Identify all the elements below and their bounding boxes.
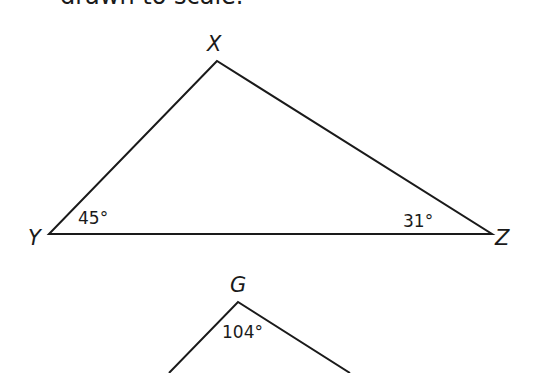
triangle-xyz <box>49 61 492 234</box>
vertex-label-z: Z <box>495 226 509 250</box>
vertex-label-x: X <box>207 32 221 56</box>
geometry-figure <box>0 0 536 373</box>
vertex-label-g: G <box>230 273 246 297</box>
angle-label-y: 45° <box>78 208 108 228</box>
angle-label-g: 104° <box>222 322 263 342</box>
angle-label-z: 31° <box>403 211 433 231</box>
vertex-label-y: Y <box>28 226 41 250</box>
